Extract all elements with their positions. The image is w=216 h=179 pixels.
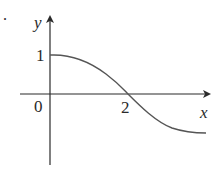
y-axis-label: y [32,13,42,32]
bullet: . [3,6,7,23]
graph: . y x 0 1 2 [0,0,216,179]
y-tick-1-label: 1 [36,46,45,65]
origin-label: 0 [34,97,43,116]
x-tick-2-label: 2 [121,98,130,117]
x-axis-label: x [199,103,208,122]
